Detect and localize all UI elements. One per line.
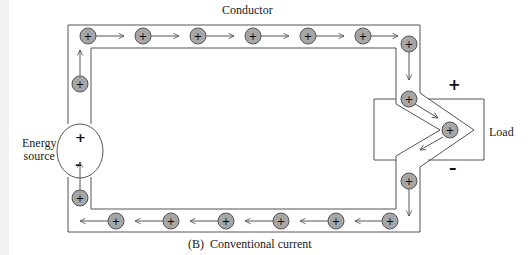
svg-text:+: + [194, 31, 202, 42]
charge: + [108, 213, 124, 229]
svg-text:+: + [405, 176, 413, 187]
positive-charges: + + + + + + + + + + + + + + + + + + [72, 28, 458, 229]
conductor-label: Conductor [222, 4, 273, 17]
conductor-outer-edge [68, 25, 474, 232]
charge: + [401, 173, 417, 189]
energy-source-label: Energy source [22, 137, 56, 163]
load-box [374, 99, 484, 160]
svg-text:+: + [139, 31, 147, 42]
svg-text:+: + [405, 94, 413, 105]
charge: + [72, 76, 88, 92]
svg-text:+: + [359, 31, 367, 42]
load-label: Load [489, 126, 514, 139]
svg-text:+: + [249, 31, 257, 42]
charge: + [163, 213, 179, 229]
charge: + [355, 28, 371, 44]
charge: + [300, 28, 316, 44]
conductor [68, 25, 474, 232]
svg-text:+: + [112, 216, 120, 227]
charge: + [72, 190, 88, 206]
energy-source-label-line2: source [22, 150, 56, 163]
svg-text:+: + [222, 216, 230, 227]
charge: + [245, 28, 261, 44]
svg-text:+: + [76, 79, 84, 90]
svg-text:+: + [405, 39, 413, 50]
charge: + [190, 28, 206, 44]
svg-text:+: + [277, 216, 285, 227]
load-negative-sign: – [449, 159, 457, 177]
circuit-diagram: + + + + + + + + + + + + + + + + + + [0, 0, 530, 255]
charge: + [442, 122, 458, 138]
load-positive-sign: + [448, 76, 461, 94]
charge: + [401, 36, 417, 52]
charge: + [80, 28, 96, 44]
current-arrows [80, 36, 443, 221]
svg-text:+: + [84, 31, 92, 42]
svg-text:+: + [446, 125, 454, 136]
charge: + [218, 213, 234, 229]
charge: + [273, 213, 289, 229]
charge: + [135, 28, 151, 44]
charge: + [328, 213, 344, 229]
source-positive-sign: + [75, 130, 86, 145]
charge: + [401, 91, 417, 107]
svg-text:+: + [167, 216, 175, 227]
svg-text:+: + [386, 216, 394, 227]
svg-text:+: + [332, 216, 340, 227]
conductor-inner-edge [91, 48, 440, 209]
source-negative-sign: – [75, 157, 82, 172]
svg-text:+: + [304, 31, 312, 42]
charge: + [382, 213, 398, 229]
svg-text:+: + [76, 193, 84, 204]
figure-caption: (B) Conventional current [188, 238, 312, 251]
